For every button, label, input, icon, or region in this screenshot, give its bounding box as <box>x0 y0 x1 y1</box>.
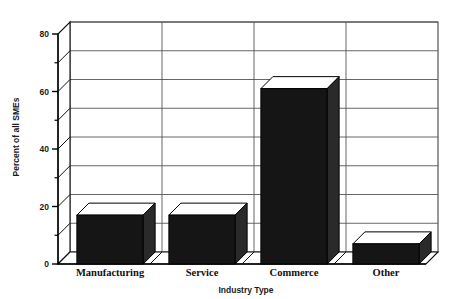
bar-commerce <box>261 77 339 264</box>
y-axis-title: Percent of all SMEs <box>11 97 21 176</box>
bar-top-face <box>77 203 155 215</box>
x-axis-category-labels: ManufacturingServiceCommerceOther <box>76 267 400 278</box>
y-axis-ticks: 020406080 <box>40 29 58 269</box>
bar-top-face <box>169 203 247 215</box>
bar-manufacturing <box>77 203 155 264</box>
bar-chart: 020406080 ManufacturingServiceCommerceOt… <box>0 0 452 299</box>
y-tick-label-20: 20 <box>40 202 50 212</box>
y-tick-label-60: 60 <box>40 87 50 97</box>
bar-front-face <box>77 215 143 264</box>
y-tick-label-80: 80 <box>40 29 50 39</box>
y-tick-label-0: 0 <box>44 259 49 269</box>
bar-top-face <box>353 232 431 244</box>
bar-front-face <box>261 89 327 264</box>
bar-side-face <box>327 77 339 264</box>
bar-front-face <box>353 244 419 264</box>
category-label-other: Other <box>373 267 400 278</box>
category-label-service: Service <box>186 267 219 278</box>
y-tick-label-40: 40 <box>40 144 50 154</box>
bar-service <box>169 203 247 264</box>
bar-front-face <box>169 215 235 264</box>
x-axis-title: Industry Type <box>218 285 273 295</box>
chart-canvas: 020406080 ManufacturingServiceCommerceOt… <box>0 0 452 299</box>
bar-top-face <box>261 77 339 89</box>
category-label-manufacturing: Manufacturing <box>76 267 145 278</box>
category-label-commerce: Commerce <box>270 267 319 278</box>
bar-other <box>353 232 431 264</box>
